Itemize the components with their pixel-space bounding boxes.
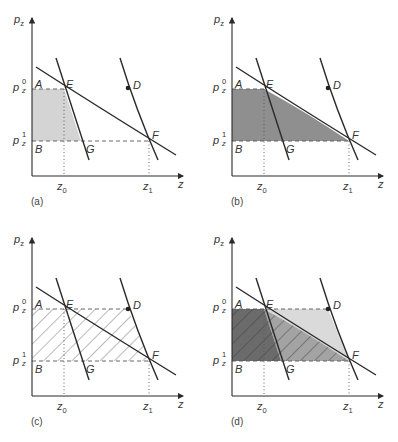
panel-c: pz z p0z p1z z0 z1 A E D F B G (c) xyxy=(0,220,200,440)
point-label-d: D xyxy=(333,80,341,91)
y-axis-label: pz xyxy=(214,14,224,28)
panel-label-a: (a) xyxy=(31,196,43,207)
z0-label: z0 xyxy=(257,181,267,195)
z0-label: z0 xyxy=(57,181,67,195)
price-p0-label: p0z xyxy=(13,302,19,313)
diagram-c xyxy=(0,220,200,440)
y-axis-label: pz xyxy=(14,234,24,248)
point-label-e: E xyxy=(66,79,73,90)
point-label-f: F xyxy=(152,350,159,361)
point-label-g: G xyxy=(286,144,295,155)
z1-label: z1 xyxy=(343,181,353,195)
panel-b: pz z p0z p1z z0 z1 A E D F B G (b) xyxy=(200,0,398,220)
point-label-b: B xyxy=(35,144,42,155)
z1-label: z1 xyxy=(143,181,153,195)
price-p1-label: p1z xyxy=(213,355,219,366)
point-label-g: G xyxy=(286,364,295,375)
price-p1-label: p1z xyxy=(213,135,219,146)
price-p0-label: p0z xyxy=(213,82,219,93)
price-p0-label: p0z xyxy=(13,82,19,93)
point-label-a: A xyxy=(235,299,242,310)
point-label-b: B xyxy=(235,364,242,375)
point-label-e: E xyxy=(266,79,273,90)
diagram-b xyxy=(200,0,398,220)
z0-label: z0 xyxy=(57,401,67,415)
z1-label: z1 xyxy=(343,401,353,415)
panel-a: pz z p0z p1z z0 z1 A E D F B G (a) xyxy=(0,0,200,220)
point-label-a: A xyxy=(235,79,242,90)
point-d xyxy=(126,86,131,91)
point-label-f: F xyxy=(152,130,159,141)
point-label-d: D xyxy=(133,80,141,91)
x-axis-label: z xyxy=(378,179,384,190)
area-adfb xyxy=(32,309,149,361)
point-label-g: G xyxy=(86,364,95,375)
point-label-d: D xyxy=(133,300,141,311)
point-label-f: F xyxy=(352,350,359,361)
point-label-d: D xyxy=(333,300,341,311)
panel-d: pz z p0z p1z z0 z1 A E D F B G (d) xyxy=(200,220,398,440)
diagram-d xyxy=(200,220,398,440)
price-p1-label: p1z xyxy=(13,135,19,146)
y-axis-label: pz xyxy=(14,14,24,28)
point-label-b: B xyxy=(35,364,42,375)
z1-label: z1 xyxy=(143,401,153,415)
point-label-e: E xyxy=(266,299,273,310)
area-aegb xyxy=(32,89,81,141)
point-label-e: E xyxy=(66,299,73,310)
x-axis-label: z xyxy=(178,179,184,190)
point-label-a: A xyxy=(35,299,42,310)
point-label-g: G xyxy=(86,144,95,155)
y-axis-label: pz xyxy=(214,234,224,248)
panel-label-c: (c) xyxy=(31,416,43,427)
z0-label: z0 xyxy=(257,401,267,415)
panel-label-b: (b) xyxy=(231,196,243,207)
price-p0-label: p0z xyxy=(213,302,219,313)
price-p1-label: p1z xyxy=(13,355,19,366)
point-label-b: B xyxy=(235,144,242,155)
panel-label-d: (d) xyxy=(231,416,243,427)
area-aefb xyxy=(232,89,349,141)
point-label-a: A xyxy=(35,79,42,90)
x-axis-label: z xyxy=(378,399,384,410)
diagram-a xyxy=(0,0,200,220)
point-label-f: F xyxy=(352,130,359,141)
supply-right xyxy=(120,58,158,160)
x-axis-label: z xyxy=(178,399,184,410)
